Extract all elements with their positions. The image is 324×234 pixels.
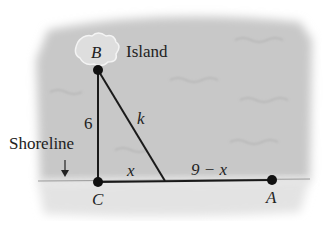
label-side-k: k (137, 110, 145, 127)
label-side-x: x (127, 162, 135, 179)
point-a (267, 175, 277, 185)
label-b: B (91, 44, 101, 61)
point-b (93, 65, 103, 75)
label-island: Island (126, 43, 168, 60)
point-c (93, 177, 103, 187)
label-side-9-minus-x: 9 − x (191, 161, 227, 178)
label-side-6: 6 (84, 115, 93, 132)
label-shoreline: Shoreline (9, 135, 74, 152)
label-a: A (266, 189, 276, 206)
water-region (36, 17, 312, 182)
label-c: C (92, 191, 103, 208)
